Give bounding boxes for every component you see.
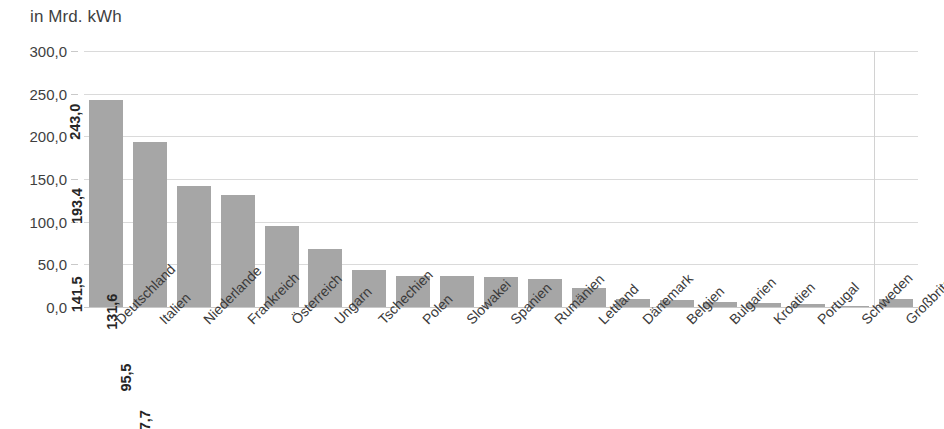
y-axis-tick-mark (71, 94, 78, 95)
gridline (84, 179, 918, 180)
bar-chart: in Mrd. kWh 300,0250,0200,0150,0100,050,… (0, 0, 944, 429)
y-axis-tick-label: 0,0 (46, 299, 67, 316)
y-axis-tick-label: 300,0 (29, 43, 67, 60)
bar-value-label: 243,0 (68, 103, 113, 139)
gridline (84, 94, 918, 95)
y-axis-tick-label: 150,0 (29, 171, 67, 188)
y-axis-tick-label: 50,0 (38, 256, 67, 273)
chart-title: in Mrd. kWh (30, 7, 122, 27)
gridline (84, 136, 918, 137)
y-axis-tick-label: 250,0 (29, 86, 67, 103)
plot-area: 243,0193,4141,5131,695,567,743,836,436,0… (84, 51, 918, 307)
y-axis: 300,0250,0200,0150,0100,050,00,0 (0, 51, 78, 307)
y-axis-tick-mark (71, 179, 78, 180)
y-axis-tick-label: 100,0 (29, 214, 67, 231)
y-axis-tick-mark (71, 51, 78, 52)
gridline (84, 51, 918, 52)
x-axis-category-labels: DeutschlandItalienNiederlandeFrankreichÖ… (84, 310, 918, 429)
bar-value-label: 193,4 (70, 188, 157, 224)
y-axis-tick-mark (71, 264, 78, 265)
category-separator-line (874, 51, 875, 307)
y-axis-tick-label: 200,0 (29, 128, 67, 145)
